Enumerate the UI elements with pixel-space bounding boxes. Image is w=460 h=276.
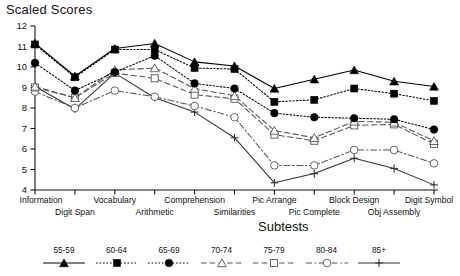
data-point-marker — [311, 113, 319, 121]
legend-label-80-84: 80-84 — [304, 246, 350, 255]
x-axis-tick-label: Information — [3, 195, 79, 205]
legend-label-65-69: 65-69 — [146, 246, 192, 255]
data-point-marker — [390, 165, 398, 173]
data-point-marker — [231, 85, 239, 93]
data-point-marker — [430, 181, 438, 189]
x-axis-tick-label: Digit Span — [37, 207, 113, 217]
y-axis-tick-label: 12 — [13, 20, 27, 31]
x-axis-tick-label: Similarities — [197, 207, 273, 217]
data-point-marker — [71, 104, 79, 112]
x-axis-tick-label: Pic Complete — [276, 207, 352, 217]
legend-swatch-60-64 — [94, 256, 140, 270]
y-axis-tick-label: 6 — [13, 143, 27, 154]
legend-swatch-70-74 — [199, 256, 245, 270]
legend-label-55-59: 55-59 — [41, 246, 87, 255]
legend-label-75-79: 75-79 — [251, 246, 297, 255]
data-point-marker — [71, 87, 79, 95]
x-axis-tick-label: Obj Assembly — [356, 207, 432, 217]
y-axis-tick-label: 8 — [13, 102, 27, 113]
data-point-marker — [311, 162, 319, 170]
y-axis-tick-label: 5 — [13, 164, 27, 175]
data-point-marker — [271, 260, 278, 267]
legend-label-60-64: 60-64 — [94, 246, 140, 255]
data-point-marker — [31, 59, 39, 67]
data-point-marker — [150, 39, 159, 47]
data-point-marker — [350, 146, 358, 154]
data-point-marker — [323, 259, 331, 267]
series-70-74 — [31, 64, 439, 145]
x-axis-tick-label: Block Design — [316, 195, 392, 205]
y-axis-tick-label: 4 — [13, 184, 27, 195]
x-axis-tick-label: Pic Arrange — [236, 195, 312, 205]
data-point-marker — [390, 146, 398, 154]
data-point-marker — [191, 80, 199, 88]
chart-container: Scaled Scores 456789101112 InformationDi… — [0, 0, 460, 276]
legend-swatch-85+ — [356, 256, 402, 270]
data-point-marker — [111, 87, 119, 95]
x-axis-tick-label: Arithmetic — [117, 207, 193, 217]
data-point-marker — [231, 113, 239, 121]
y-axis-tick-label: 9 — [13, 82, 27, 93]
data-point-marker — [351, 85, 358, 92]
data-point-marker — [310, 170, 318, 178]
data-point-marker — [271, 162, 279, 170]
x-axis-tick-label: Comprehension — [157, 195, 233, 205]
x-axis-title: Subtests — [258, 219, 309, 234]
x-axis-tick-label: Vocabulary — [77, 195, 153, 205]
data-point-marker — [165, 259, 173, 267]
data-point-marker — [350, 66, 359, 74]
legend-swatch-75-79 — [251, 256, 297, 270]
y-axis-tick-label: 11 — [13, 41, 27, 52]
data-point-marker — [431, 97, 438, 104]
data-point-marker — [271, 109, 279, 117]
data-point-marker — [430, 126, 438, 134]
data-point-marker — [375, 259, 383, 267]
data-point-marker — [271, 98, 278, 105]
y-axis-tick-label: 10 — [13, 61, 27, 72]
legend-swatch-65-69 — [146, 256, 192, 270]
data-point-marker — [111, 68, 119, 76]
data-point-marker — [391, 90, 398, 97]
data-point-marker — [191, 102, 199, 110]
series-line — [35, 68, 434, 141]
legend-label-70-74: 70-74 — [199, 246, 245, 255]
data-point-marker — [113, 260, 120, 267]
x-axis-tick-label: Digit Symbol — [391, 195, 460, 205]
y-axis-tick-label: 7 — [13, 123, 27, 134]
axis-lines — [31, 26, 439, 195]
data-point-marker — [350, 154, 358, 162]
data-point-marker — [311, 96, 318, 103]
legend-swatch-80-84 — [304, 256, 350, 270]
data-point-marker — [350, 114, 358, 122]
data-point-marker — [390, 77, 399, 85]
legend-swatch-55-59 — [41, 256, 87, 270]
data-point-marker — [390, 115, 398, 123]
data-point-marker — [151, 93, 159, 101]
data-point-marker — [151, 75, 158, 82]
legend-label-85+: 85+ — [356, 246, 402, 255]
data-point-marker — [430, 160, 438, 168]
plot-area — [0, 0, 460, 276]
